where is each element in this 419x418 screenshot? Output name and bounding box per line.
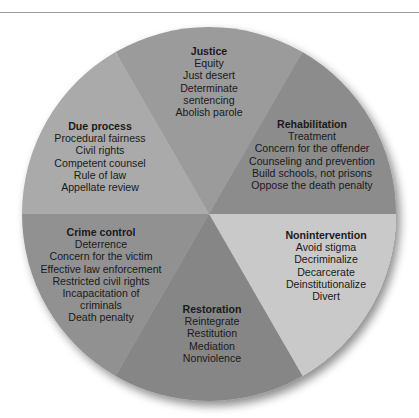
slice-item: Deinstitutionalize xyxy=(285,278,366,290)
label-justice: Justice Equity Just desert Determinate s… xyxy=(175,45,242,118)
slice-item: Nonviolence xyxy=(183,352,242,364)
label-rehabilitation: Rehabilitation Treatment Concern for the… xyxy=(249,118,375,191)
slice-item: Abolish parole xyxy=(175,106,242,118)
slice-title: Justice xyxy=(175,45,242,57)
slice-item: criminals xyxy=(40,299,161,311)
slice-item: Just desert xyxy=(175,69,242,81)
slice-title: Due process xyxy=(54,120,145,132)
slice-item: Equity xyxy=(175,57,242,69)
slice-title: Nonintervention xyxy=(285,229,366,241)
slice-item: Effective law enforcement xyxy=(40,263,161,275)
slice-item: Decriminalize xyxy=(285,253,366,265)
slice-item: Restricted civil rights xyxy=(40,275,161,287)
slice-item: Civil rights xyxy=(54,144,145,156)
slice-item: Reintegrate xyxy=(183,315,242,327)
slice-item: Appellate review xyxy=(54,181,145,193)
slice-title: Crime control xyxy=(40,226,161,238)
slice-item: Decarcerate xyxy=(285,266,366,278)
slice-item: Concern for the offender xyxy=(249,142,375,154)
slice-item: Treatment xyxy=(249,130,375,142)
slice-item: sentencing xyxy=(175,94,242,106)
slice-item: Determinate xyxy=(175,82,242,94)
slice-item: Oppose the death penalty xyxy=(249,179,375,191)
slice-item: Mediation xyxy=(183,340,242,352)
slice-title: Rehabilitation xyxy=(249,118,375,130)
slice-item: Avoid stigma xyxy=(285,241,366,253)
slice-item: Rule of law xyxy=(54,169,145,181)
slice-title: Restoration xyxy=(183,303,242,315)
slice-item: Deterrence xyxy=(40,238,161,250)
label-due-process: Due process Procedural fairness Civil ri… xyxy=(54,120,145,193)
slice-item: Build schools, not prisons xyxy=(249,167,375,179)
label-restoration: Restoration Reintegrate Restitution Medi… xyxy=(183,303,242,364)
slice-item: Concern for the victim xyxy=(40,250,161,262)
slice-item: Counseling and prevention xyxy=(249,155,375,167)
label-crime-control: Crime control Deterrence Concern for the… xyxy=(40,226,161,324)
slice-item: Death penalty xyxy=(40,311,161,323)
label-nonintervention: Nonintervention Avoid stigma Decriminali… xyxy=(285,229,366,302)
slice-item: Competent counsel xyxy=(54,157,145,169)
slice-item: Divert xyxy=(285,290,366,302)
slice-item: Incapacitation of xyxy=(40,287,161,299)
slice-item: Restitution xyxy=(183,327,242,339)
slice-item: Procedural fairness xyxy=(54,132,145,144)
